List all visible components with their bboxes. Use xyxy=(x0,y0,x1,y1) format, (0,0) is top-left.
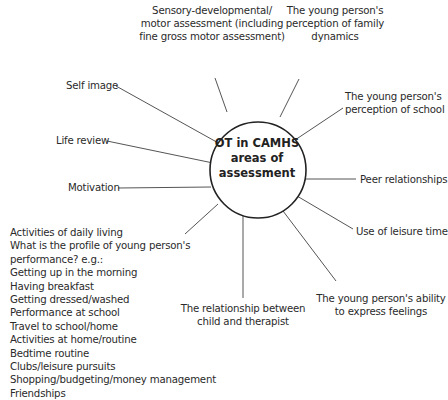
list-item: Friendships xyxy=(10,387,216,400)
node-life-review: Life review xyxy=(56,134,109,147)
list-item: Travel to school/home xyxy=(10,320,216,333)
list-item: Shopping/budgeting/money management xyxy=(10,373,216,386)
connector-self-image xyxy=(116,86,222,145)
connector-life-review xyxy=(107,141,213,163)
center-title: OT in CAMHS areas of assessment xyxy=(209,136,305,181)
node-feelings: The young person's ability to express fe… xyxy=(316,292,446,318)
node-self-image: Self image xyxy=(66,79,118,92)
list-item: Getting up in the morning xyxy=(10,266,216,279)
list-item: Performance at school xyxy=(10,306,216,319)
list-item: performance? e.g.: xyxy=(10,253,216,266)
list-item: Getting dressed/washed xyxy=(10,293,216,306)
node-adl-list: Activities of daily living What is the p… xyxy=(10,226,216,400)
list-item: What is the profile of young person's xyxy=(10,239,216,252)
connector-feelings xyxy=(280,207,336,281)
list-item: Activities of daily living xyxy=(10,226,216,239)
node-peer: Peer relationships xyxy=(360,173,447,186)
node-motivation: Motivation xyxy=(68,181,120,194)
connector-family xyxy=(280,79,299,117)
node-sensory: Sensory-developmental/ motor assessment … xyxy=(136,4,288,43)
connector-motivation xyxy=(118,187,211,188)
list-item: Clubs/leisure pursuits xyxy=(10,360,216,373)
connector-leisure xyxy=(297,196,353,229)
list-item: Activities at home/routine xyxy=(10,333,216,346)
list-item: Bedtime routine xyxy=(10,347,216,360)
list-item: Having breakfast xyxy=(10,280,216,293)
node-school: The young person's perception of school xyxy=(345,90,445,116)
node-family: The young person's perception of family … xyxy=(280,4,390,43)
node-leisure: Use of leisure time xyxy=(356,225,448,238)
connector-sensory xyxy=(215,78,227,112)
